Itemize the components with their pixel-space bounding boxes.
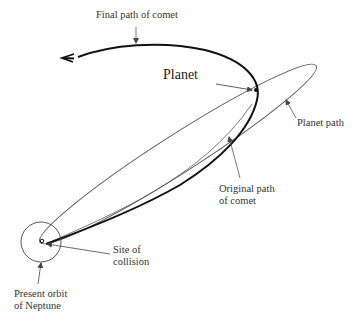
collision-site-marker <box>40 239 44 243</box>
original-path-pointer <box>229 137 240 178</box>
final-path-label: Final path of comet <box>96 9 178 21</box>
final-path-of-comet <box>46 45 258 244</box>
neptune-label-line1: Present orbit <box>14 288 67 300</box>
diagram-canvas <box>0 0 355 326</box>
neptune-label: Present orbit of Neptune <box>14 288 67 312</box>
planet-label: Planet <box>163 67 198 83</box>
collision-label-line1: Site of <box>113 244 149 256</box>
neptune-label-line2: of Neptune <box>14 300 67 312</box>
original-path-label: Original path of comet <box>219 183 275 207</box>
collision-label: Site of collision <box>113 244 149 268</box>
final-path-arrowhead-icon <box>62 54 74 62</box>
original-path-of-comet <box>46 104 252 244</box>
neptune-pointer <box>38 263 41 284</box>
planet-pointer <box>216 84 252 90</box>
planet-path-pointer <box>286 100 296 118</box>
planet-dot <box>254 88 258 92</box>
collision-pointer <box>47 244 110 254</box>
original-path-label-line1: Original path <box>219 183 275 195</box>
collision-label-line2: collision <box>113 256 149 268</box>
planet-path-label: Planet path <box>297 117 344 129</box>
original-path-label-line2: of comet <box>219 195 275 207</box>
